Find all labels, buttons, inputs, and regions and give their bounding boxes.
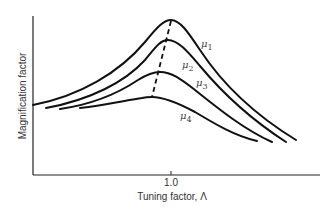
magnification-factor-chart: μ1 μ2 μ3 μ4 1.0 Tuning factor, Λ Magnifi… [0, 0, 328, 212]
curve-mu4 [80, 97, 257, 141]
label-mu2: μ2 [182, 59, 194, 73]
x-axis-label: Tuning factor, Λ [137, 191, 207, 202]
label-mu3: μ3 [196, 77, 208, 91]
curve-mu2 [46, 40, 286, 142]
y-axis-label: Magnification factor [17, 52, 28, 139]
peak-locus-dashed-line [152, 21, 171, 97]
x-tick-label: 1.0 [164, 177, 178, 188]
label-mu4: μ4 [180, 110, 192, 124]
label-mu1: μ1 [201, 38, 213, 52]
